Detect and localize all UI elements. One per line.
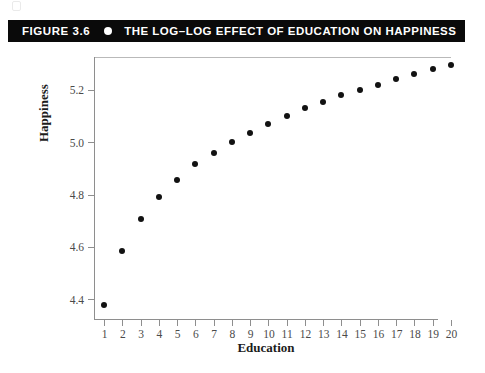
x-tick-label: 7	[211, 328, 217, 340]
chart-area: 4.44.64.85.05.2 123456789101112131415161…	[0, 42, 485, 373]
x-tick: 20	[451, 320, 452, 326]
data-point	[448, 62, 454, 68]
x-tick: 18	[414, 320, 415, 326]
y-tick: 5.2	[88, 90, 94, 91]
x-tick-label: 16	[373, 328, 385, 340]
x-tick: 12	[305, 320, 306, 326]
x-tick-label: 20	[446, 328, 458, 340]
x-axis-line	[94, 319, 438, 320]
y-tick: 4.6	[88, 247, 94, 248]
data-point	[430, 66, 436, 72]
figure-banner: FIGURE 3.6 THE LOG–LOG EFFECT OF EDUCATI…	[8, 20, 465, 42]
x-tick-label: 12	[300, 328, 312, 340]
x-tick-label: 2	[120, 328, 126, 340]
x-tick-label: 1	[102, 328, 108, 340]
x-tick-label: 8	[229, 328, 235, 340]
figure-title: THE LOG–LOG EFFECT OF EDUCATION ON HAPPI…	[124, 25, 456, 37]
x-tick: 5	[177, 320, 178, 326]
data-point	[375, 82, 381, 88]
x-tick-label: 11	[282, 328, 293, 340]
x-tick: 11	[287, 320, 288, 326]
x-tick-label: 14	[336, 328, 348, 340]
y-tick-label: 4.6	[70, 241, 84, 253]
x-tick: 4	[159, 320, 160, 326]
plot-frame	[94, 57, 451, 319]
y-tick: 4.8	[88, 195, 94, 196]
x-tick-label: 10	[263, 328, 275, 340]
x-tick-label: 3	[138, 328, 144, 340]
figure-number: FIGURE 3.6	[22, 25, 90, 37]
x-tick: 17	[396, 320, 397, 326]
x-tick-label: 17	[391, 328, 403, 340]
x-tick: 16	[378, 320, 379, 326]
x-tick-label: 13	[318, 328, 330, 340]
x-tick-label: 18	[409, 328, 421, 340]
x-tick: 10	[268, 320, 269, 326]
data-point	[156, 194, 162, 200]
y-axis-line	[94, 57, 95, 320]
x-tick-label: 15	[354, 328, 366, 340]
data-point	[302, 105, 308, 111]
y-tick-label: 4.4	[70, 294, 84, 306]
x-tick: 8	[232, 320, 233, 326]
x-tick: 2	[122, 320, 123, 326]
x-tick-label: 5	[175, 328, 181, 340]
data-point	[101, 302, 107, 308]
data-point	[284, 113, 290, 119]
scan-artifact	[12, 1, 21, 11]
y-tick-label: 5.0	[70, 137, 84, 149]
x-tick-label: 6	[193, 328, 199, 340]
x-tick: 7	[214, 320, 215, 326]
x-tick: 3	[141, 320, 142, 326]
x-tick-label: 19	[427, 328, 439, 340]
x-tick-label: 9	[248, 328, 254, 340]
x-tick: 1	[104, 320, 105, 326]
data-point	[357, 87, 363, 93]
x-tick: 13	[323, 320, 324, 326]
y-tick-label: 4.8	[70, 189, 84, 201]
y-axis-label: Happiness	[36, 84, 52, 142]
x-tick-label: 4	[156, 328, 162, 340]
x-axis-label: Education	[94, 340, 438, 356]
y-tick: 5.0	[88, 142, 94, 143]
y-tick-label: 5.2	[70, 84, 84, 96]
y-tick: 4.4	[88, 299, 94, 300]
x-tick: 14	[341, 320, 342, 326]
x-tick: 6	[195, 320, 196, 326]
data-point	[320, 99, 326, 105]
x-tick: 9	[250, 320, 251, 326]
data-point	[229, 139, 235, 145]
x-tick: 15	[360, 320, 361, 326]
x-tick: 19	[433, 320, 434, 326]
data-point	[211, 150, 217, 156]
filled-circle-icon	[104, 27, 112, 35]
